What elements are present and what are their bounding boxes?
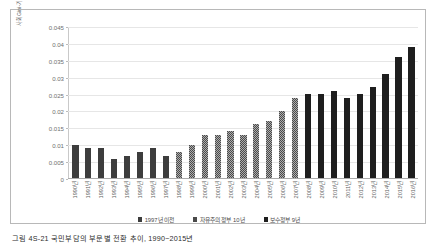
bar[interactable]	[227, 131, 233, 178]
bar[interactable]	[344, 98, 350, 178]
bar[interactable]	[318, 94, 324, 178]
bar[interactable]	[305, 94, 311, 178]
bar-slot	[340, 27, 353, 178]
legend-label: 자유주의 정부 10년	[200, 215, 245, 224]
x-axis-label-slot: 2012년	[354, 180, 367, 212]
x-axis-tick-label: 2004년	[253, 181, 261, 198]
x-axis-tick-label: 1997년	[162, 181, 170, 198]
x-axis-tick-label: 1995년	[136, 181, 144, 198]
x-axis-label-slot: 2016년	[406, 180, 419, 212]
bar-slot	[95, 27, 108, 178]
bar-slot	[69, 27, 82, 178]
bar-slot	[237, 27, 250, 178]
x-axis-tick-label: 1993년	[110, 181, 118, 198]
legend-swatch-icon	[264, 217, 268, 221]
bar-slot	[159, 27, 172, 178]
bar[interactable]	[370, 87, 376, 178]
bar[interactable]	[292, 98, 298, 178]
bar-slot	[134, 27, 147, 178]
bar-slot	[392, 27, 405, 178]
bar[interactable]	[382, 74, 388, 178]
bar[interactable]	[240, 135, 246, 178]
bar[interactable]	[85, 148, 91, 178]
legend-item[interactable]: 보수정부 9년	[264, 215, 301, 224]
x-axis-tick-label: 2006년	[279, 181, 287, 198]
bar[interactable]	[72, 145, 78, 178]
x-axis-label-slot: 1994년	[121, 180, 134, 212]
bar[interactable]	[357, 94, 363, 178]
y-axis-title-text: 사회Gini-기초분Gini	[13, 0, 25, 53]
bar[interactable]	[124, 156, 130, 178]
y-axis-tick-label: 0.025	[34, 91, 64, 98]
y-axis-tick-label: 0.02	[34, 108, 64, 115]
chart-figure-frame: 사회Gini-기초분Gini 0.0450.040.0350.030.0250.…	[10, 9, 426, 224]
x-axis-label-slot: 2009년	[315, 180, 328, 212]
y-axis-tick-label: 0.01	[34, 142, 64, 149]
bar-slot	[327, 27, 340, 178]
legend-label: 보수정부 9년	[270, 215, 300, 224]
bar[interactable]	[279, 111, 285, 178]
x-axis-label-slot: 1991년	[82, 180, 95, 212]
x-axis-tick-label: 2003년	[240, 181, 248, 198]
x-axis-label-slot: 2001년	[212, 180, 225, 212]
bar[interactable]	[408, 47, 414, 178]
x-axis-tick-label: 2001년	[214, 181, 222, 198]
x-axis-tick-label: 2015년	[396, 181, 404, 198]
x-axis-line	[68, 178, 418, 179]
bar-slot	[108, 27, 121, 178]
x-axis-tick-label: 2007년	[292, 181, 300, 198]
x-axis-tick-label: 2013년	[370, 181, 378, 198]
figure-caption: 그림 4S-21 국민부담의 부문별 전환 추이, 1990~2015년	[12, 233, 194, 243]
x-axis-label-slot: 2015년	[393, 180, 406, 212]
x-axis-label-slot: 2007년	[289, 180, 302, 212]
x-axis-label-slot: 2000년	[199, 180, 212, 212]
x-axis-tick-label: 1994년	[123, 181, 131, 198]
x-axis-tick-label: 1998년	[175, 181, 183, 198]
bar[interactable]	[137, 152, 143, 178]
bar[interactable]	[331, 91, 337, 178]
legend-swatch-icon	[193, 217, 197, 221]
bar[interactable]	[163, 156, 169, 178]
bar-slot	[82, 27, 95, 178]
bar-slot	[185, 27, 198, 178]
bar-slot	[302, 27, 315, 178]
x-axis-label-slot: 2014년	[380, 180, 393, 212]
x-axis-tick-label: 2009년	[318, 181, 326, 198]
bar-slot	[172, 27, 185, 178]
x-axis-tick-label: 2011년	[344, 181, 352, 198]
bar-slot	[289, 27, 302, 178]
legend-swatch-icon	[138, 217, 142, 221]
bar[interactable]	[266, 121, 272, 178]
bar[interactable]	[253, 124, 259, 178]
y-axis-tick-label: 0.04	[34, 40, 64, 47]
x-axis-label-slot: 2006년	[277, 180, 290, 212]
x-axis-label-slot: 2004년	[251, 180, 264, 212]
bar[interactable]	[395, 57, 401, 178]
y-axis-tick-label: 0	[34, 176, 64, 183]
bar[interactable]	[150, 148, 156, 178]
bar-slot	[353, 27, 366, 178]
legend-item[interactable]: 자유주의 정부 10년	[193, 215, 244, 224]
y-axis-tick-mark	[66, 27, 68, 28]
y-axis-tick-label: 0.045	[34, 24, 64, 31]
plot-area: 0.0450.040.0350.030.0250.020.0150.010.00…	[68, 27, 418, 179]
bar[interactable]	[202, 135, 208, 178]
x-axis-tick-label: 2008년	[305, 181, 313, 198]
bar-slot	[250, 27, 263, 178]
bar[interactable]	[111, 159, 117, 178]
bar[interactable]	[98, 148, 104, 178]
x-axis-tick-label: 2016년	[409, 181, 417, 198]
bar[interactable]	[189, 145, 195, 178]
bar-slot	[379, 27, 392, 178]
y-axis-tick-label: 0.035	[34, 57, 64, 64]
x-axis-label-slot: 1999년	[186, 180, 199, 212]
bar[interactable]	[176, 152, 182, 178]
y-axis-tick-label: 0.03	[34, 74, 64, 81]
x-axis-label-slot: 1996년	[147, 180, 160, 212]
x-axis-tick-label: 2010년	[331, 181, 339, 198]
x-axis-label-slot: 2008년	[302, 180, 315, 212]
x-axis-tick-label: 1996년	[149, 181, 157, 198]
y-axis-tick-mark	[66, 145, 68, 146]
bar[interactable]	[215, 135, 221, 178]
legend-item[interactable]: 1997년 이전	[138, 215, 174, 224]
